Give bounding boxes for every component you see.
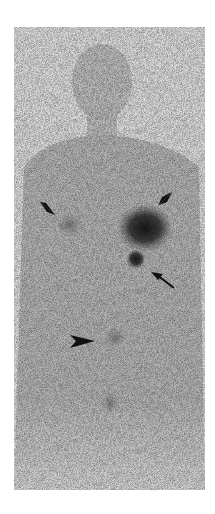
arrowhead-left-upper-icon <box>158 192 172 206</box>
arrowhead-pelvic-icon <box>70 335 95 348</box>
arrowhead-right-upper-icon <box>40 202 56 216</box>
annotation-layer <box>0 0 215 514</box>
arrow-focal-uptake-icon <box>151 272 174 288</box>
